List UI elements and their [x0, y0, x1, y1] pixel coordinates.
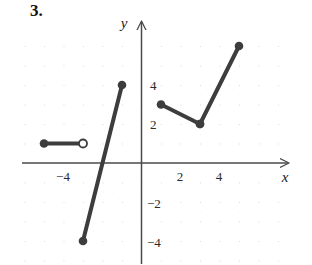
closed-endpoint-dot: [196, 120, 205, 129]
y-tick-label-neg4: −4: [147, 235, 161, 250]
closed-endpoint-dot: [118, 81, 127, 90]
grid-layer: [22, 40, 292, 264]
x-axis-label: x: [281, 169, 289, 185]
y-axis-label: y: [119, 15, 128, 31]
closed-endpoint-dot: [40, 139, 49, 148]
y-tick-label-4: 4: [150, 78, 157, 93]
open-endpoint-dot: [79, 140, 87, 148]
x-tick-label-neg4: −4: [56, 169, 70, 184]
coordinate-plot: y x −4 2 4 4 2 −2 −4: [0, 0, 312, 265]
figure-container: 3. y x −4 2 4: [0, 0, 312, 265]
x-tick-label-4: 4: [216, 169, 223, 184]
x-tick-label-2: 2: [177, 169, 184, 184]
y-tick-label-neg2: −2: [147, 196, 161, 211]
y-tick-label-2: 2: [150, 117, 157, 132]
closed-endpoint-dot: [79, 237, 88, 246]
closed-endpoint-dot: [157, 100, 166, 109]
closed-endpoint-dot: [235, 42, 244, 51]
